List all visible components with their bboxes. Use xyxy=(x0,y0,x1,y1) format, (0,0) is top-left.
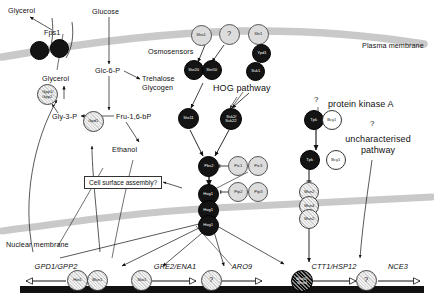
gpp2-label: Gpp2 xyxy=(42,95,52,99)
pbs2-label: Pbs2 xyxy=(204,164,213,168)
glucose-label: Glucose xyxy=(92,7,119,16)
plasma-membrane-label: Plasma membrane xyxy=(362,41,424,50)
msn4-label-1: Msn4 xyxy=(304,204,314,208)
pbs2-node: Pbs2 xyxy=(198,156,219,177)
sko1-label: Sko1 xyxy=(137,278,146,282)
bcy1-label-1: Bcy1 xyxy=(327,118,336,122)
glycerol-extracellular-label: Glycerol xyxy=(8,6,35,15)
ptp2-label: Ptp2 xyxy=(234,190,242,194)
bcy1-label-2: Bcy1 xyxy=(331,158,340,162)
msn1-label: Msn1 xyxy=(92,278,102,282)
ste50-label: Ste50 xyxy=(207,68,218,72)
ypd1-node: Ypd1 xyxy=(252,44,271,63)
ste11-label: Ste11 xyxy=(183,116,193,120)
hog1-label-1: Hog1 xyxy=(204,192,214,196)
gene-label-gpd1-gpp2: GPD1/GPP2 xyxy=(35,262,78,271)
ssk1-label: Ssk1 xyxy=(251,69,260,73)
pka-label: protein kinase A xyxy=(328,99,394,109)
ethanol-label: Ethanol xyxy=(112,145,137,154)
gene-label-nce3: NCE3 xyxy=(388,262,408,271)
ssk22-label: Ssk22 xyxy=(225,119,236,123)
sln1-label: Sln1 xyxy=(254,32,262,36)
pka-question-icon: ? xyxy=(314,95,319,104)
nce3-unknown-label: ? xyxy=(364,277,368,285)
ssk2-ssk22-node: Ssk2/ Ssk22 xyxy=(220,108,242,130)
uncharacterised-pathway-label-line1: uncharacterised xyxy=(345,134,411,144)
hog1-label-3: Hog1 xyxy=(204,223,214,227)
glc6p-label: Glc-6-P xyxy=(95,66,120,75)
uncharacterised-pathway-label-line2: pathway xyxy=(361,145,395,155)
gpd1-node: Gpd1 xyxy=(83,111,104,132)
unknown-sensor-label: ? xyxy=(227,31,231,39)
tf-msn2-msn4-node: Msn2/ Msn4 xyxy=(291,270,313,292)
msn2-nuclear-node: Msn2 xyxy=(299,209,319,229)
ptp2-node: Ptp2 xyxy=(228,182,248,202)
fps1-channel-left xyxy=(30,41,49,60)
pathway-diagram: Plasma membrane Nuclear membrane Glycero… xyxy=(0,0,434,306)
gpp1-gpp2-node: Gpp1/ Gpp2 xyxy=(37,84,58,105)
ste50-node: Ste50 xyxy=(202,60,222,80)
tpk-free-node: Tpk xyxy=(300,150,320,170)
tpk-label-1: Tpk xyxy=(311,118,318,122)
msn2-label-1: Msn2 xyxy=(304,190,314,194)
ste11-node: Ste11 xyxy=(178,108,199,129)
ste20-node: Ste20 xyxy=(184,60,204,80)
ypd1-label: Ypd1 xyxy=(257,51,266,55)
hog1-nuclear-node: Hog1 xyxy=(198,215,219,236)
fru16bp-label: Fru-1,6-bP xyxy=(116,112,151,121)
sho1-label: Sho1 xyxy=(197,33,207,37)
gene-label-ctt1-hsp12: CTT1/HSP12 xyxy=(312,262,357,271)
glycerol-intracellular-label: Glycerol xyxy=(42,74,69,83)
nuclear-membrane-label: Nuclear membrane xyxy=(6,240,69,249)
unknown-sensor-node: ? xyxy=(219,24,240,45)
gly3p-label: Gly-3-P xyxy=(52,112,77,121)
hog-pathway-label: HOG pathway xyxy=(213,83,271,93)
msn4-promoter-label: Msn4 xyxy=(297,281,307,285)
fps1-label: Fps1 xyxy=(44,28,60,37)
fps1-channel-right xyxy=(50,39,69,58)
hot1-label: Hot1 xyxy=(73,278,82,282)
ssk1-node: Ssk1 xyxy=(246,62,265,81)
tpk-bound-node: Tpk xyxy=(304,110,324,130)
msn2-label-2: Msn2 xyxy=(304,217,314,221)
bcy1-bound-node: Bcy1 xyxy=(322,110,342,130)
sln1-node: Sln1 xyxy=(248,24,269,45)
ptc1-label: Ptc1 xyxy=(234,164,242,168)
sho1-node: Sho1 xyxy=(191,25,212,46)
ptp3-label: Ptp3 xyxy=(254,190,262,194)
tpk-label-2: Tpk xyxy=(307,158,314,162)
ptc3-label: Ptc3 xyxy=(254,164,262,168)
tf-hot1-node: Hot1 xyxy=(67,270,88,291)
gene-label-gre2-ena1: GRE2/ENA1 xyxy=(154,262,196,271)
gene-label-aro9: ARO9 xyxy=(232,262,253,271)
trehalose-label: Trehalose xyxy=(142,74,175,83)
tf-nce3-unknown-node: ? xyxy=(356,270,377,291)
aro9-unknown-label: ? xyxy=(209,277,213,285)
hog1-label-2: Hog1 xyxy=(204,208,214,212)
ptc3-node: Ptc3 xyxy=(248,156,268,176)
ptp3-node: Ptp3 xyxy=(248,182,268,202)
uncharacterised-question-icon: ? xyxy=(370,119,375,128)
gpd1-label: Gpd1 xyxy=(88,119,98,123)
ptc1-node: Ptc1 xyxy=(228,156,248,176)
glycogen-label: Glycogen xyxy=(142,83,173,92)
bcy1-free-node: Bcy1 xyxy=(326,150,346,170)
osmosensors-label: Osmosensors xyxy=(148,47,193,56)
ste20-label: Ste20 xyxy=(189,68,200,72)
tf-msn1-node: Msn1 xyxy=(87,270,108,291)
tf-sko1-node: Sko1 xyxy=(131,270,152,291)
cell-surface-assembly-box: Cell surface assembly? xyxy=(84,176,162,189)
tf-aro9-unknown-node: ? xyxy=(201,270,222,291)
